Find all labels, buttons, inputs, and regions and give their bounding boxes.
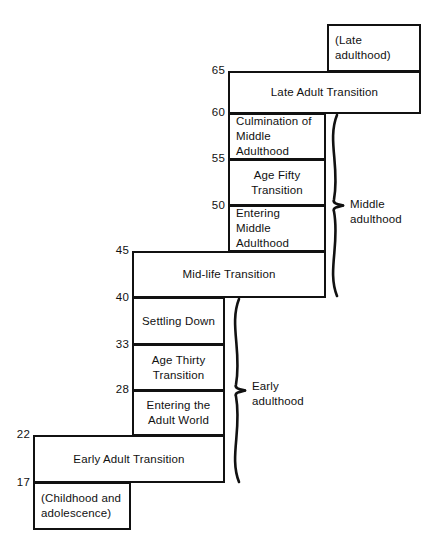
stage-box-label: Culmination of Middle Adulthood bbox=[230, 114, 324, 159]
age-tick-28: 28 bbox=[109, 383, 129, 395]
stage-box-late-adulthood: (Late adulthood) bbox=[327, 24, 421, 72]
stage-box-culmination-of-middle-adulthood: Culmination of Middle Adulthood bbox=[228, 113, 326, 160]
stage-box-label: Early Adult Transition bbox=[35, 452, 223, 467]
age-tick-33: 33 bbox=[109, 338, 129, 350]
stage-box-label: (Late adulthood) bbox=[329, 33, 419, 63]
stage-box-age-thirty-transition: Age Thirty Transition bbox=[132, 344, 225, 391]
age-tick-60: 60 bbox=[205, 106, 225, 118]
stage-box-age-fifty-transition: Age Fifty Transition bbox=[228, 159, 326, 206]
stage-box-childhood-and-adolescence: (Childhood and adolescence) bbox=[33, 482, 131, 530]
stage-box-late-adult-transition: Late Adult Transition bbox=[228, 71, 421, 114]
stage-box-label: (Childhood and adolescence) bbox=[35, 491, 129, 521]
stage-box-label: Settling Down bbox=[134, 314, 223, 329]
brace-curve-middle-adulthood bbox=[333, 206, 343, 297]
stage-box-label: Mid-life Transition bbox=[134, 267, 324, 282]
age-tick-40: 40 bbox=[109, 291, 129, 303]
age-tick-65: 65 bbox=[205, 64, 225, 76]
brace-label-middle-adulthood: Middle adulthood bbox=[350, 197, 402, 227]
brace-curve-middle-adulthood bbox=[333, 115, 343, 206]
age-tick-55: 55 bbox=[205, 152, 225, 164]
stage-box-label: Age Thirty Transition bbox=[134, 353, 223, 383]
age-tick-45: 45 bbox=[109, 244, 129, 256]
stage-box-label: Age Fifty Transition bbox=[230, 168, 324, 198]
age-tick-22: 22 bbox=[10, 428, 30, 440]
stage-box-mid-life-transition: Mid-life Transition bbox=[132, 251, 326, 298]
brace-label-early-adulthood: Early adulthood bbox=[252, 379, 304, 409]
brace-curve-early-adulthood bbox=[235, 391, 245, 483]
stage-box-label: Entering Middle Adulthood bbox=[230, 206, 324, 251]
stage-box-early-adult-transition: Early Adult Transition bbox=[33, 435, 225, 483]
age-tick-50: 50 bbox=[205, 199, 225, 211]
stage-box-label: Late Adult Transition bbox=[230, 85, 419, 100]
age-tick-17: 17 bbox=[10, 476, 30, 488]
stage-box-entering-middle-adulthood: Entering Middle Adulthood bbox=[228, 205, 326, 252]
levinson-life-stages-diagram: (Late adulthood)Late Adult TransitionCul… bbox=[0, 0, 437, 555]
brace-curve-early-adulthood bbox=[235, 299, 245, 391]
stage-box-settling-down: Settling Down bbox=[132, 297, 225, 345]
stage-box-label: Entering the Adult World bbox=[134, 398, 223, 428]
stage-box-entering-the-adult-world: Entering the Adult World bbox=[132, 390, 225, 436]
